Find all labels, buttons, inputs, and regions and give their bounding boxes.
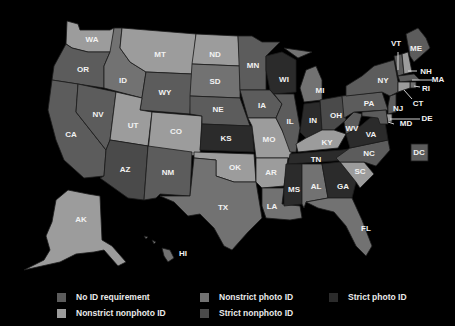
label-WY: WY bbox=[159, 88, 173, 97]
legend-swatch bbox=[329, 293, 338, 302]
label-OH: OH bbox=[330, 111, 342, 120]
label-WI: WI bbox=[279, 75, 289, 84]
legend-swatch bbox=[57, 293, 66, 302]
us-voter-id-map: WA OR CA NV ID MT WY UT CO AZ NM ND SD N… bbox=[0, 0, 455, 326]
label-FL: FL bbox=[361, 224, 371, 233]
label-MI: MI bbox=[316, 86, 325, 95]
label-PA: PA bbox=[364, 99, 375, 108]
label-NY: NY bbox=[377, 76, 389, 85]
legend-item-nonstrict-photo: Nonstrict photo ID bbox=[200, 292, 293, 302]
label-TN: TN bbox=[311, 155, 322, 164]
label-UT: UT bbox=[128, 121, 139, 130]
legend-item-strict-photo: Strict photo ID bbox=[329, 292, 407, 302]
label-SC: SC bbox=[354, 167, 365, 176]
label-WV: WV bbox=[346, 124, 360, 133]
leader-CT bbox=[404, 90, 412, 99]
label-MS: MS bbox=[288, 185, 301, 194]
state-HI[interactable] bbox=[144, 236, 174, 262]
label-AR: AR bbox=[265, 168, 277, 177]
legend-label: Nonstrict photo ID bbox=[219, 292, 293, 302]
label-MD: MD bbox=[400, 119, 413, 128]
legend-swatch bbox=[200, 293, 209, 302]
label-IL: IL bbox=[286, 117, 293, 126]
label-KS: KS bbox=[220, 134, 232, 143]
label-MT: MT bbox=[154, 50, 166, 59]
label-TX: TX bbox=[218, 203, 229, 212]
legend-label: Nonstrict nonphoto ID bbox=[76, 308, 166, 318]
label-HI: HI bbox=[179, 249, 187, 258]
label-VT: VT bbox=[391, 39, 401, 48]
label-IA: IA bbox=[258, 101, 266, 110]
legend-item-no-id: No ID requirement bbox=[57, 292, 150, 302]
label-NV: NV bbox=[92, 110, 104, 119]
label-KY: KY bbox=[321, 138, 333, 147]
state-MA[interactable] bbox=[398, 74, 420, 82]
legend-label: Strict nonphoto ID bbox=[219, 308, 293, 318]
label-NM: NM bbox=[162, 168, 175, 177]
label-IN: IN bbox=[309, 116, 317, 125]
label-SD: SD bbox=[209, 77, 220, 86]
label-NC: NC bbox=[363, 149, 375, 158]
state-AK[interactable] bbox=[24, 190, 126, 270]
label-ND: ND bbox=[209, 50, 221, 59]
label-LA: LA bbox=[267, 202, 278, 211]
label-MA: MA bbox=[432, 75, 445, 84]
label-NJ: NJ bbox=[393, 104, 403, 113]
legend-label: Strict photo ID bbox=[348, 292, 407, 302]
label-CT: CT bbox=[413, 99, 424, 108]
label-OR: OR bbox=[77, 65, 89, 74]
label-ME: ME bbox=[410, 44, 423, 53]
state-RI[interactable] bbox=[410, 82, 416, 88]
legend-swatch bbox=[57, 309, 66, 318]
label-GA: GA bbox=[337, 182, 349, 191]
label-CA: CA bbox=[65, 130, 77, 139]
label-DE: DE bbox=[421, 114, 433, 123]
state-NY[interactable] bbox=[346, 60, 398, 96]
label-VA: VA bbox=[366, 130, 377, 139]
legend-label: No ID requirement bbox=[76, 292, 150, 302]
label-AL: AL bbox=[311, 182, 322, 191]
label-MO: MO bbox=[263, 135, 276, 144]
label-OK: OK bbox=[229, 163, 241, 172]
legend-swatch bbox=[200, 309, 209, 318]
label-RI: RI bbox=[422, 84, 430, 93]
label-ID: ID bbox=[119, 76, 127, 85]
label-WA: WA bbox=[86, 35, 99, 44]
legend-item-nonstrict-nonphoto: Nonstrict nonphoto ID bbox=[57, 308, 166, 318]
label-NE: NE bbox=[212, 105, 224, 114]
state-WI[interactable] bbox=[266, 52, 296, 94]
label-MN: MN bbox=[247, 61, 260, 70]
legend-item-strict-nonphoto: Strict nonphoto ID bbox=[200, 308, 293, 318]
label-NH: NH bbox=[420, 67, 432, 76]
label-AZ: AZ bbox=[120, 165, 131, 174]
label-CO: CO bbox=[170, 127, 182, 136]
label-AK: AK bbox=[75, 215, 87, 224]
label-DC: DC bbox=[413, 148, 425, 157]
